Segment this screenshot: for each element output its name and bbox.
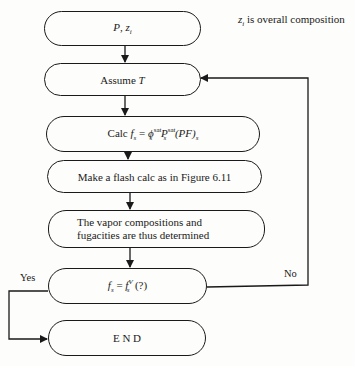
flash-calc-node: Make a flash calc as in Figure 6.11 — [47, 160, 262, 193]
decision-node: fs = fVs (?) — [48, 268, 207, 304]
assume-t-node: Assume T — [44, 63, 201, 96]
yes-label: Yes — [20, 272, 35, 283]
vapor-composition-node: The vapor compositions and fugacities ar… — [48, 210, 265, 248]
composition-note: zi is overall composition — [238, 13, 345, 28]
input-node: P, zi — [44, 11, 201, 46]
no-label: No — [284, 268, 297, 279]
calc-fugacity-node: Calc fs = ϕsats Psats (PF)s — [46, 116, 260, 152]
end-node: E N D — [48, 320, 206, 356]
